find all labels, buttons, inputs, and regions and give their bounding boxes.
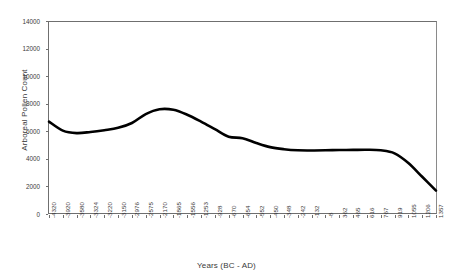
x-tick-label: -3580 (79, 202, 86, 218)
y-tick-mark (46, 104, 48, 105)
x-tick-label: -242 (300, 206, 307, 218)
y-tick-mark (46, 159, 48, 160)
x-tick-mark (256, 215, 257, 218)
x-tick-mark (173, 215, 174, 218)
x-tick-label: -2170 (162, 202, 169, 218)
x-tick-label: -928 (217, 206, 224, 218)
x-tick-label: -2976 (134, 202, 141, 218)
x-tick-mark (381, 215, 382, 218)
x-tick-mark (270, 215, 271, 218)
y-tick-mark (46, 76, 48, 77)
x-tick-label: 616 (369, 208, 376, 218)
x-axis-title: Years (BC - AD) (0, 261, 453, 270)
x-tick-mark (63, 215, 64, 218)
x-tick-mark (201, 215, 202, 218)
x-tick-label: -8 (328, 212, 335, 218)
x-tick-label: 1206 (425, 204, 432, 218)
x-tick-mark (408, 215, 409, 218)
x-tick-mark (312, 215, 313, 218)
x-tick-mark (422, 215, 423, 218)
x-tick-mark (118, 215, 119, 218)
x-tick-mark (90, 215, 91, 218)
y-tick-mark (46, 21, 48, 22)
x-tick-label: -552 (259, 206, 266, 218)
x-tick-mark (298, 215, 299, 218)
x-tick-mark (284, 215, 285, 218)
x-tick-mark (104, 215, 105, 218)
y-tick-mark (46, 214, 48, 215)
x-tick-label: 767 (383, 208, 390, 218)
x-tick-label: -3220 (107, 202, 114, 218)
x-tick-mark (49, 215, 50, 218)
x-tick-mark (353, 215, 354, 218)
x-tick-label: -3920 (65, 202, 72, 218)
x-tick-mark (77, 215, 78, 218)
x-tick-label: -1253 (203, 202, 210, 218)
x-tick-label: -3150 (121, 202, 128, 218)
x-tick-mark (132, 215, 133, 218)
x-tick-mark (339, 215, 340, 218)
x-tick-label: 362 (342, 208, 349, 218)
x-axis-tick-labels: -4320-3920-3580-3324-3220-3150-2976-2575… (0, 0, 453, 280)
x-tick-label: -670 (231, 206, 238, 218)
x-tick-mark (215, 215, 216, 218)
x-tick-label: -1865 (176, 202, 183, 218)
x-tick-label: -4320 (51, 202, 58, 218)
x-tick-label: 1357 (438, 204, 445, 218)
x-tick-mark (146, 215, 147, 218)
x-tick-label: -2575 (148, 202, 155, 218)
y-tick-mark (46, 131, 48, 132)
x-tick-label: 1055 (411, 204, 418, 218)
x-tick-mark (436, 215, 437, 218)
x-tick-label: -450 (273, 206, 280, 218)
y-tick-mark (46, 49, 48, 50)
x-tick-mark (187, 215, 188, 218)
x-tick-mark (395, 215, 396, 218)
x-tick-label: -654 (245, 206, 252, 218)
x-tick-mark (325, 215, 326, 218)
x-tick-mark (367, 215, 368, 218)
x-tick-label: -348 (286, 206, 293, 218)
x-tick-label: 919 (397, 208, 404, 218)
x-tick-mark (160, 215, 161, 218)
x-tick-mark (243, 215, 244, 218)
y-tick-mark (46, 186, 48, 187)
x-tick-label: -132 (314, 206, 321, 218)
x-tick-label: -1556 (190, 202, 197, 218)
x-tick-label: -3324 (93, 202, 100, 218)
pollen-count-line-chart: Arboreal Pollen Count 020004000600080001… (0, 0, 453, 280)
x-tick-label: 465 (355, 208, 362, 218)
x-tick-mark (229, 215, 230, 218)
